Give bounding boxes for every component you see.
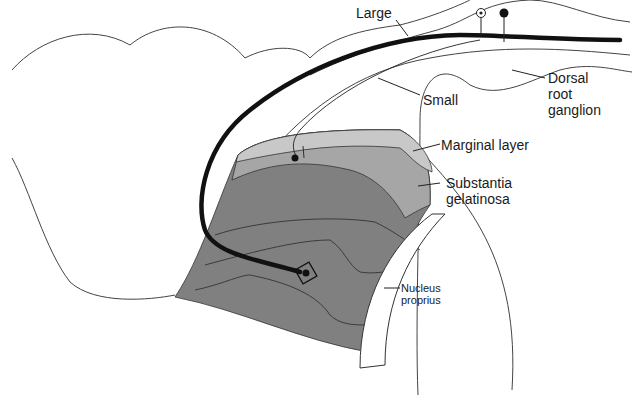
label-drg-line1: Dorsal xyxy=(548,70,601,86)
label-nucleus-proprius: Nucleus proprius xyxy=(401,282,441,306)
label-dorsal-root-ganglion: Dorsal root ganglion xyxy=(548,70,601,118)
large-leader xyxy=(396,20,408,36)
left-lower-outline xyxy=(12,158,175,299)
label-small: Small xyxy=(423,92,458,108)
small-leader xyxy=(378,78,420,95)
label-np-line1: Nucleus xyxy=(401,282,441,294)
drg-leader xyxy=(512,70,545,78)
label-marginal-layer: Marginal layer xyxy=(441,137,529,153)
spinal-cord-diagram: Large Small Dorsal root ganglion Margina… xyxy=(0,0,638,401)
label-sg-line1: Substantia xyxy=(446,175,512,191)
small-fiber-terminal-dot xyxy=(292,155,299,162)
label-np-line2: proprius xyxy=(401,294,441,306)
diagram-drawing xyxy=(0,0,638,401)
small-cell-body[interactable] xyxy=(500,9,509,18)
label-substantia-gelatinosa: Substantia gelatinosa xyxy=(446,175,512,207)
label-large: Large xyxy=(356,5,392,21)
label-drg-line2: root xyxy=(548,86,601,102)
large-cell-nucleus xyxy=(479,11,482,14)
label-drg-line3: ganglion xyxy=(548,102,601,118)
dorsal-surface-outline xyxy=(12,0,470,70)
label-sg-line2: gelatinosa xyxy=(446,191,512,207)
large-fiber-terminal-dot xyxy=(303,270,310,277)
